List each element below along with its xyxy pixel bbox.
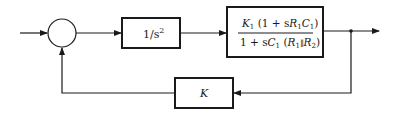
block-diagram: 1/s2 K1 (1 + sR1C1) 1 + sC1 (R1∥R2) K <box>0 0 395 116</box>
integrator-label: 1/s <box>143 28 160 41</box>
summing-junction <box>48 19 76 47</box>
plant-transfer-function-block: K1 (1 + sR1C1) 1 + sC1 (R1∥R2) <box>227 7 323 57</box>
feedback-gain-label: K <box>199 87 209 100</box>
plant-denominator: 1 + sC1 (R1∥R2) <box>240 36 320 50</box>
integrator-exponent: 2 <box>159 26 164 35</box>
feedback-gain-block: K <box>175 78 233 108</box>
feedback-path-to-junction <box>62 48 175 93</box>
integrator-block: 1/s2 <box>122 18 180 48</box>
